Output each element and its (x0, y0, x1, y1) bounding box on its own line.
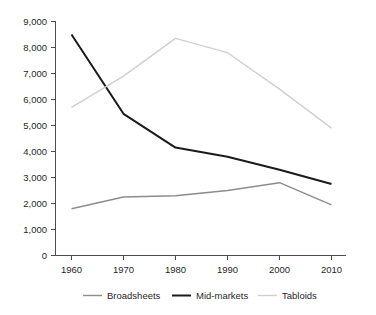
x-tick-marks (72, 256, 332, 261)
x-tick-label-2000: 2000 (269, 264, 290, 275)
series-line-broadsheets (72, 183, 332, 209)
x-tick-label-1990: 1990 (217, 264, 238, 275)
series-group (72, 35, 332, 209)
series-line-mid-markets (72, 35, 332, 185)
y-tick-label-2000: 2,000 (23, 198, 47, 209)
x-tick-label-1970: 1970 (113, 264, 134, 275)
x-tick-label-1980: 1980 (165, 264, 186, 275)
y-tick-label-9000: 9,000 (23, 16, 47, 27)
chart-legend: Broadsheets Mid-markets Tabloids (83, 290, 317, 301)
legend-label-tabloids: Tabloids (282, 290, 317, 301)
legend-label-mid-markets: Mid-markets (196, 290, 249, 301)
legend-label-broadsheets: Broadsheets (107, 290, 161, 301)
y-tick-label-7000: 7,000 (23, 68, 47, 79)
x-tick-label-2010: 2010 (321, 264, 342, 275)
y-tick-label-0: 0 (42, 250, 47, 261)
y-tick-marks (51, 22, 56, 256)
y-tick-label-3000: 3,000 (23, 172, 47, 183)
y-tick-label-6000: 6,000 (23, 94, 47, 105)
y-tick-label-8000: 8,000 (23, 42, 47, 53)
chart-canvas: 9,000 8,000 7,000 6,000 5,000 4,000 3,00… (0, 0, 376, 315)
x-tick-label-1960: 1960 (61, 264, 82, 275)
y-tick-label-5000: 5,000 (23, 120, 47, 131)
line-chart: 9,000 8,000 7,000 6,000 5,000 4,000 3,00… (0, 0, 376, 315)
series-line-tabloids (72, 38, 332, 128)
y-tick-label-1000: 1,000 (23, 224, 47, 235)
y-tick-label-4000: 4,000 (23, 146, 47, 157)
